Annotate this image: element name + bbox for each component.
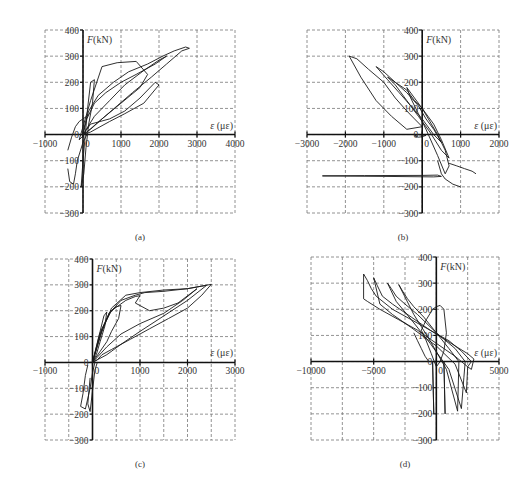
subfigure-caption: (c) bbox=[135, 459, 145, 469]
y-tick-label: 0 bbox=[84, 358, 89, 368]
y-axis-label: F(kN) bbox=[425, 34, 451, 46]
y-tick-label: 200 bbox=[65, 78, 80, 88]
y-tick-label: −300 bbox=[399, 209, 419, 219]
y-tick-label: −200 bbox=[399, 182, 419, 192]
x-tick-label: 1000 bbox=[131, 366, 150, 376]
y-tick-label: 300 bbox=[404, 52, 419, 62]
y-tick-label: −100 bbox=[399, 156, 419, 166]
series-vertical-spike-1 bbox=[433, 362, 434, 414]
series-outer-loop bbox=[349, 56, 422, 129]
x-tick-label: 1000 bbox=[112, 139, 131, 149]
x-tick-label: 0 bbox=[438, 366, 443, 376]
y-tick-label: −200 bbox=[59, 182, 79, 192]
y-tick-label: −200 bbox=[413, 409, 433, 419]
y-tick-label: 400 bbox=[404, 26, 419, 36]
y-axis-label: F(kN) bbox=[96, 263, 122, 275]
y-axis-label: F(kN) bbox=[439, 261, 465, 273]
x-tick-label: 4000 bbox=[226, 139, 245, 149]
x-axis-label: ε (με) bbox=[210, 120, 233, 132]
y-tick-label: −300 bbox=[69, 436, 89, 446]
y-tick-label: 300 bbox=[418, 279, 433, 289]
data-series bbox=[81, 284, 212, 411]
series-loop-3 bbox=[388, 77, 450, 158]
x-tick-label: −3000 bbox=[295, 139, 320, 149]
subfigure-caption: (a) bbox=[135, 232, 145, 242]
y-tick-label: 200 bbox=[418, 305, 433, 315]
y-tick-label: −100 bbox=[69, 384, 89, 394]
y-tick-label: 200 bbox=[404, 78, 419, 88]
y-tick-label: 200 bbox=[74, 306, 89, 316]
data-series bbox=[68, 47, 190, 187]
y-tick-label: 400 bbox=[65, 26, 80, 36]
y-tick-label: 100 bbox=[404, 104, 419, 114]
y-tick-label: −300 bbox=[59, 209, 79, 219]
x-tick-label: 3000 bbox=[188, 139, 207, 149]
subfigure-caption: (d) bbox=[400, 459, 411, 469]
y-tick-label: 100 bbox=[418, 331, 433, 341]
chart-c: −10000100020003000−300−200−1000100200300… bbox=[33, 255, 245, 470]
chart-d: −10000−500005000−300−200−100010020030040… bbox=[296, 253, 508, 470]
y-tick-label: 300 bbox=[65, 52, 80, 62]
x-tick-label: 0 bbox=[95, 366, 100, 376]
series-right-tail bbox=[449, 163, 476, 174]
series-horizontal-spike bbox=[322, 175, 441, 177]
x-tick-label: 5000 bbox=[490, 366, 509, 376]
x-tick-label: −1000 bbox=[33, 139, 58, 149]
y-tick-label: 0 bbox=[413, 130, 418, 140]
y-tick-label: 400 bbox=[74, 255, 89, 265]
y-tick-label: 100 bbox=[74, 332, 89, 342]
y-tick-label: 300 bbox=[74, 280, 89, 290]
x-tick-label: 0 bbox=[85, 139, 90, 149]
y-tick-label: 100 bbox=[65, 104, 80, 114]
x-tick-label: −2000 bbox=[333, 139, 358, 149]
x-tick-label: −1000 bbox=[33, 366, 58, 376]
x-tick-label: 2000 bbox=[178, 366, 197, 376]
x-tick-label: 2000 bbox=[150, 139, 169, 149]
x-axis-label: ε (με) bbox=[210, 347, 233, 359]
y-tick-label: 0 bbox=[74, 130, 79, 140]
y-tick-label: 400 bbox=[418, 253, 433, 263]
x-axis-label: ε (με) bbox=[474, 120, 497, 132]
x-tick-label: 0 bbox=[424, 139, 429, 149]
y-tick-label: 0 bbox=[428, 357, 433, 367]
grid bbox=[311, 257, 499, 440]
chart-b: −3000−2000−1000010002000−300−200−1000100… bbox=[295, 26, 509, 243]
chart-a: −100001000200030004000−300−200−100010020… bbox=[33, 26, 245, 243]
y-tick-label: −100 bbox=[413, 383, 433, 393]
series-vertical-spike-2 bbox=[444, 362, 445, 414]
subfigure-caption: (b) bbox=[398, 232, 409, 242]
figure-canvas: −100001000200030004000−300−200−100010020… bbox=[0, 0, 531, 491]
y-tick-label: −300 bbox=[413, 436, 433, 446]
x-tick-label: 3000 bbox=[226, 366, 245, 376]
x-tick-label: 1000 bbox=[451, 139, 470, 149]
x-tick-label: 2000 bbox=[490, 139, 509, 149]
x-tick-label: −1000 bbox=[372, 139, 397, 149]
x-tick-label: −5000 bbox=[361, 366, 386, 376]
y-tick-label: −100 bbox=[59, 156, 79, 166]
y-axis-label: F(kN) bbox=[86, 34, 112, 46]
x-tick-label: −10000 bbox=[296, 366, 325, 376]
y-tick-label: −200 bbox=[69, 410, 89, 420]
x-axis-label: ε (με) bbox=[474, 347, 497, 359]
